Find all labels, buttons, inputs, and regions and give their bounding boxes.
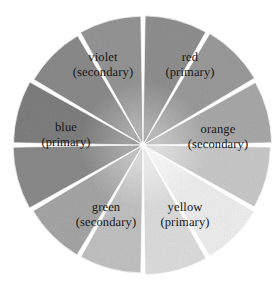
color-wheel-diagram bbox=[0, 0, 277, 291]
color-wheel-figure: violet (secondary) red (primary) blue (p… bbox=[0, 0, 277, 291]
wheel-hub bbox=[140, 142, 146, 148]
